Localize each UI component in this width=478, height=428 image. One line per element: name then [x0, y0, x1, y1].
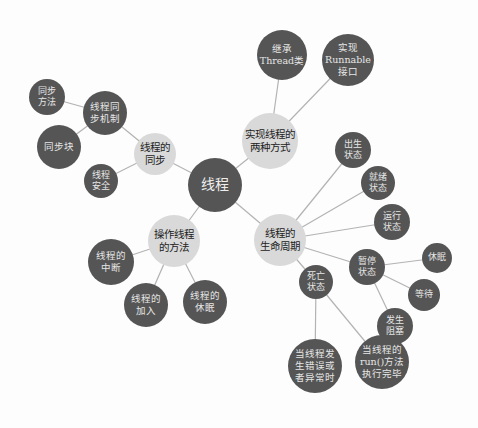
- node-sync: 线程的 同步: [134, 133, 176, 175]
- node-label: 继承 Thread类: [258, 43, 306, 67]
- node-running: 运行 状态: [374, 204, 410, 240]
- node-thread-safe: 线程 安全: [84, 164, 118, 198]
- node-label: 死亡 状态: [305, 271, 327, 294]
- node-wait: 等待: [408, 279, 440, 311]
- node-label: 运行 状态: [381, 211, 403, 234]
- node-label: 线程的 生命周期: [258, 227, 302, 253]
- node-label: 出生 状态: [342, 139, 364, 162]
- node-dead: 死亡 状态: [299, 265, 333, 299]
- node-join: 线程的 加入: [124, 283, 168, 327]
- node-label: 线程的 同步: [138, 141, 172, 167]
- node-sync-mech: 线程同 步机制: [83, 91, 127, 135]
- node-label: 实现 Runnable 接口: [323, 42, 373, 78]
- node-label: 线程 安全: [90, 170, 112, 193]
- node-sleep: 休眠: [422, 243, 452, 273]
- node-sync-block: 同步块: [37, 125, 81, 169]
- node-label: 线程的 加入: [129, 293, 163, 317]
- root-node: 线程: [188, 158, 242, 212]
- node-sleep-op: 线程的 休眠: [183, 280, 227, 324]
- node-interrupt: 线程的 中断: [88, 239, 134, 285]
- node-ops: 操作线程 的方法: [148, 215, 200, 267]
- node-born: 出生 状态: [335, 132, 371, 168]
- root-label: 线程: [199, 176, 231, 194]
- node-paused: 暂停 状态: [349, 249, 385, 285]
- node-label: 线程的 中断: [94, 250, 128, 274]
- node-label: 休眠: [426, 252, 448, 263]
- node-label: 当线程的 run()方法 执行完毕: [358, 344, 406, 380]
- node-label: 当线程发 生错误或 者异常时: [293, 348, 337, 384]
- node-label: 实现线程的 两种方式: [243, 128, 297, 154]
- node-label: 就绪 状态: [367, 172, 389, 195]
- node-label: 发生 阻塞: [384, 315, 406, 338]
- node-dead-error: 当线程发 生错误或 者异常时: [288, 339, 342, 393]
- node-label: 操作线程 的方法: [152, 228, 196, 254]
- node-ready: 就绪 状态: [361, 166, 395, 200]
- node-label: 线程同 步机制: [88, 101, 122, 125]
- node-dead-run: 当线程的 run()方法 执行完毕: [355, 335, 409, 389]
- node-sync-method: 同步 方法: [29, 79, 65, 115]
- mind-map-canvas: 线程 线程的 同步线程同 步机制同步 方法同步块线程 安全实现线程的 两种方式继…: [0, 0, 478, 428]
- node-two-ways: 实现线程的 两种方式: [242, 113, 298, 169]
- node-lifecycle: 线程的 生命周期: [254, 214, 306, 266]
- node-label: 线程的 休眠: [188, 290, 222, 314]
- node-extend-thread: 继承 Thread类: [257, 30, 307, 80]
- node-impl-runnable: 实现 Runnable 接口: [322, 34, 374, 86]
- node-label: 同步块: [42, 141, 76, 153]
- node-label: 等待: [413, 289, 435, 300]
- node-label: 同步 方法: [36, 86, 58, 109]
- node-label: 暂停 状态: [356, 256, 378, 279]
